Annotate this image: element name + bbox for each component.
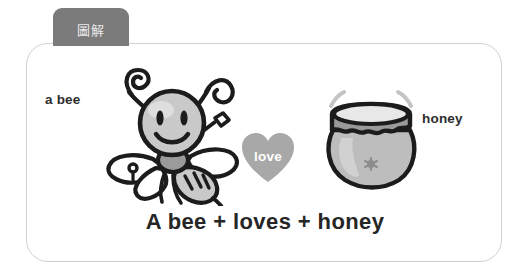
bee-label: a bee <box>45 92 81 107</box>
bee-icon <box>99 56 247 206</box>
tab-illustration-label: 圖解 <box>77 18 105 37</box>
honey-label: honey <box>422 111 463 126</box>
caption-text: A bee + loves + honey <box>27 209 503 235</box>
illustration-stage: a bee <box>27 44 503 263</box>
honey-jar-icon <box>315 86 427 192</box>
illustration-panel: 圖解 a bee <box>0 0 528 277</box>
illustration-card: a bee <box>26 43 502 262</box>
tab-illustration[interactable]: 圖解 <box>53 8 129 46</box>
heart-icon: love <box>241 132 295 184</box>
